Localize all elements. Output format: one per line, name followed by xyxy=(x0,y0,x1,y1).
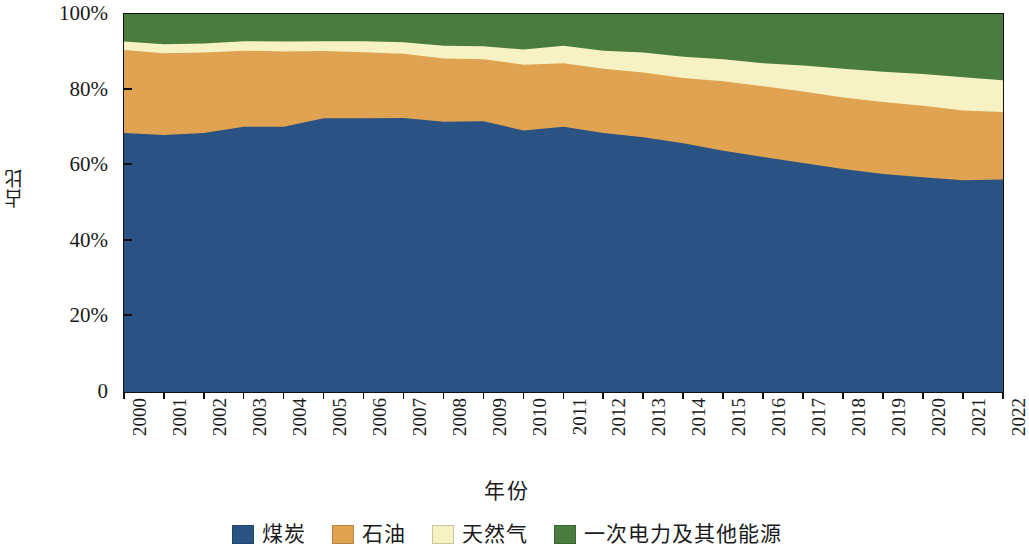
y-tick-mark xyxy=(123,239,132,241)
legend-label: 天然气 xyxy=(462,524,528,545)
y-tick-mark xyxy=(123,163,132,165)
legend-swatch-icon xyxy=(432,525,454,544)
x-tick-label: 2002 xyxy=(210,398,229,436)
x-tick-label: 2013 xyxy=(649,398,668,436)
x-tick-label: 2016 xyxy=(769,398,788,436)
x-tick-label: 2021 xyxy=(969,398,988,436)
y-tick-mark xyxy=(123,88,132,90)
y-tick-label: 20% xyxy=(70,305,109,326)
x-tick-label: 2017 xyxy=(809,398,828,436)
legend-label: 石油 xyxy=(362,524,406,545)
y-tick-label: 40% xyxy=(70,229,109,250)
x-tick-label: 2012 xyxy=(609,398,628,436)
legend-swatch-icon xyxy=(232,525,254,544)
x-axis-title: 年份 xyxy=(0,474,1013,504)
legend-label: 一次电力及其他能源 xyxy=(584,524,782,545)
x-tick-label: 2022 xyxy=(1009,398,1028,436)
plot-area xyxy=(123,13,1004,393)
area-series-group xyxy=(124,14,1003,392)
y-tick-label: 100% xyxy=(59,3,108,24)
legend-item[interactable]: 石油 xyxy=(332,524,406,545)
legend-item[interactable]: 煤炭 xyxy=(232,524,306,545)
x-tick-label: 2020 xyxy=(929,398,948,436)
chart-legend: 煤炭石油天然气一次电力及其他能源 xyxy=(0,524,1013,545)
legend-swatch-icon xyxy=(554,525,576,544)
x-tick-label: 2007 xyxy=(410,398,429,436)
x-tick-label: 2011 xyxy=(570,398,589,435)
x-tick-label: 2003 xyxy=(250,398,269,436)
y-tick-mark xyxy=(123,314,132,316)
x-tick-label: 2014 xyxy=(689,398,708,436)
legend-label: 煤炭 xyxy=(262,524,306,545)
x-tick-label: 2001 xyxy=(170,398,189,436)
y-tick-label: 60% xyxy=(70,154,109,175)
x-tick-label: 2015 xyxy=(729,398,748,436)
x-tick-label: 2008 xyxy=(450,398,469,436)
y-tick-label: 80% xyxy=(70,78,109,99)
x-tick-label: 2004 xyxy=(290,398,309,436)
x-tick-label: 2006 xyxy=(370,398,389,436)
x-tick-label: 2019 xyxy=(889,398,908,436)
legend-item[interactable]: 一次电力及其他能源 xyxy=(554,524,782,545)
x-tick-label: 2005 xyxy=(330,398,349,436)
x-axis-tick-labels: 2000200120022003200420052006200720082009… xyxy=(0,398,1013,468)
x-tick-label: 2018 xyxy=(849,398,868,436)
x-tick-label: 2010 xyxy=(530,398,549,436)
x-tick-label: 2009 xyxy=(490,398,509,436)
y-axis-tick-labels: 100%80%60%40%20%0 xyxy=(0,0,118,400)
x-tick-label: 2000 xyxy=(130,398,149,436)
legend-swatch-icon xyxy=(332,525,354,544)
legend-item[interactable]: 天然气 xyxy=(432,524,528,545)
